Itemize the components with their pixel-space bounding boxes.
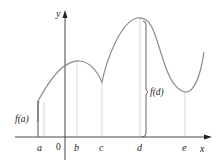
x-axis: [15, 135, 212, 140]
point-label-b: b: [74, 142, 79, 153]
f-d-label: f(d): [150, 87, 164, 98]
y-axis: [63, 10, 68, 160]
f-a-brace: [37, 101, 41, 137]
point-label-e: e: [182, 142, 187, 153]
point-label-c: c: [99, 142, 104, 153]
f-a-label: f(a): [15, 114, 29, 125]
x-axis-label: x: [199, 143, 205, 154]
function-curve: [38, 18, 204, 122]
origin-label: 0: [56, 142, 61, 152]
y-axis-arrow-icon: [63, 10, 68, 18]
point-label-d: d: [137, 142, 143, 153]
point-label-a: a: [37, 142, 42, 153]
f-d-brace: [142, 21, 148, 137]
y-axis-label: y: [55, 8, 61, 19]
x-axis-arrow-icon: [204, 135, 212, 140]
function-graph-diagram: y x 0 a b c d e f(a) f(d): [0, 0, 217, 162]
